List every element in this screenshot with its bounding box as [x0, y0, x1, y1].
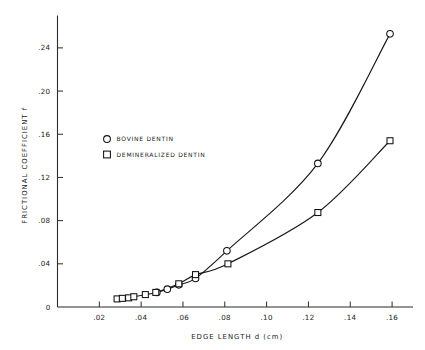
data-point-square — [193, 272, 199, 278]
y-tick-label: .16 — [38, 130, 50, 139]
x-tick-label: .06 — [177, 313, 189, 322]
x-tick-label: .10 — [260, 313, 272, 322]
data-point-circle — [315, 160, 322, 167]
data-point-square — [225, 261, 231, 267]
series-line-square — [117, 141, 390, 299]
legend-label: DEMINERALIZED DENTIN — [117, 151, 206, 158]
data-point-circle — [387, 31, 394, 38]
data-point-circle — [164, 286, 171, 293]
series-curves — [117, 34, 390, 299]
axes-group — [58, 16, 414, 308]
y-tick-label: .04 — [38, 259, 50, 268]
x-tick-label: .16 — [386, 313, 398, 322]
legend-marker-circle — [104, 136, 111, 143]
data-point-square — [131, 294, 137, 300]
data-point-circle — [224, 248, 231, 255]
x-axis-title: EDGE LENGTH d (cm) — [191, 333, 283, 341]
series-markers — [114, 31, 393, 302]
x-tick-label: .14 — [344, 313, 356, 322]
y-tick-label: 0 — [46, 303, 51, 312]
y-axis-tick-labels: 0.04.08.12.16.20.24 — [38, 43, 50, 311]
data-point-square — [119, 295, 125, 301]
y-tick-label: .20 — [38, 87, 50, 96]
legend-marker-square — [104, 151, 111, 158]
figure-root: .02.04.06.08.10.12.14.16 0.04.08.12.16.2… — [0, 0, 425, 350]
x-axis-tick-labels: .02.04.06.08.10.12.14.16 — [93, 313, 398, 322]
data-point-square — [315, 210, 321, 216]
data-point-square — [142, 292, 148, 298]
x-axis-ticks — [99, 302, 392, 308]
x-tick-label: .08 — [219, 313, 231, 322]
series-line-circle — [157, 34, 390, 293]
data-point-square — [387, 138, 393, 144]
y-tick-label: .12 — [38, 173, 50, 182]
data-point-square — [176, 281, 182, 287]
chart-canvas: .02.04.06.08.10.12.14.16 0.04.08.12.16.2… — [0, 0, 425, 350]
chart-legend: BOVINE DENTINDEMINERALIZED DENTIN — [104, 135, 206, 158]
y-axis-title: FRICTIONAL COEFFICIENT f — [21, 107, 29, 224]
x-tick-label: .04 — [135, 313, 147, 322]
y-tick-label: .24 — [38, 43, 50, 52]
x-tick-label: .12 — [302, 313, 314, 322]
y-axis-ticks — [58, 48, 64, 264]
y-tick-label: .08 — [38, 216, 50, 225]
x-tick-label: .02 — [93, 313, 105, 322]
data-point-square — [153, 289, 159, 295]
legend-label: BOVINE DENTIN — [117, 135, 174, 142]
